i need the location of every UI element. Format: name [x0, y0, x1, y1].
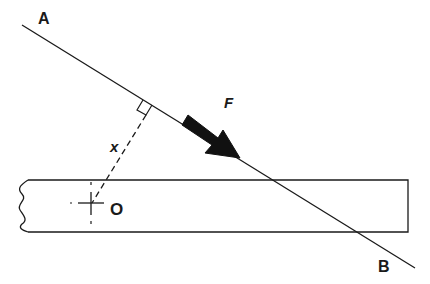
force-arrow-icon: [182, 115, 240, 158]
label-force: F: [224, 94, 234, 111]
moment-diagram: A F x O B: [0, 0, 430, 284]
right-angle-marker: [137, 100, 152, 115]
pivot-crosshair-icon: [70, 182, 104, 224]
perpendicular-distance-line: [92, 115, 146, 203]
beam: [19, 180, 408, 232]
label-distance-x: x: [109, 138, 119, 155]
label-origin: O: [110, 200, 123, 219]
label-point-b: B: [378, 258, 390, 275]
beam-break-line: [19, 180, 28, 232]
label-point-a: A: [38, 10, 50, 27]
